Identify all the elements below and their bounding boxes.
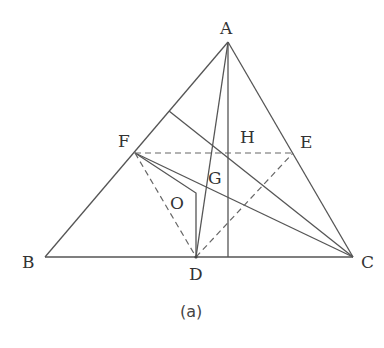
label-H: H <box>240 129 255 146</box>
label-E: E <box>300 134 312 151</box>
label-B: B <box>22 254 35 271</box>
segment-AC <box>228 42 353 257</box>
label-G: G <box>208 170 222 187</box>
dashed-FD <box>135 153 196 257</box>
label-A: A <box>220 20 232 37</box>
label-O: O <box>170 195 184 212</box>
point-D-dot <box>194 255 197 258</box>
label-C: C <box>361 254 374 271</box>
geometry-figure: A B C D E F G H O (a) <box>0 0 384 348</box>
label-D: D <box>189 266 203 283</box>
triangle-diagram <box>0 0 384 348</box>
figure-caption: (a) <box>180 302 202 321</box>
label-F: F <box>118 133 130 150</box>
